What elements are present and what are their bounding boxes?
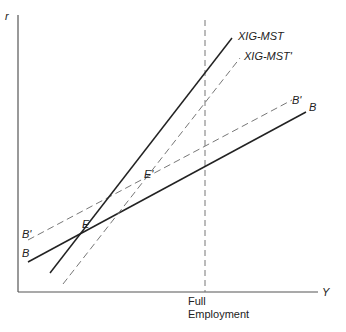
y-axis-label: r <box>5 10 10 22</box>
point-e-prime-label: E' <box>144 168 154 180</box>
b-left-label: B <box>22 247 29 259</box>
full-employment-label-2: Employment <box>188 308 249 320</box>
xig-mst-prime-label: XIG-MST' <box>243 50 293 62</box>
xig-mst-label: XIG-MST <box>237 30 285 42</box>
is-lm-bp-diagram: r Y Full Employment XIG-MST XIG-MST' B' … <box>0 0 346 332</box>
b-prime-curve <box>28 100 292 240</box>
point-e-label: E <box>82 218 90 230</box>
full-employment-label-1: Full <box>188 295 206 307</box>
b-curve <box>28 112 306 262</box>
b-right-label: B <box>309 101 316 113</box>
x-axis-label: Y <box>322 286 330 298</box>
b-prime-right-label: B' <box>292 94 302 106</box>
b-prime-left-label: B' <box>22 228 32 240</box>
